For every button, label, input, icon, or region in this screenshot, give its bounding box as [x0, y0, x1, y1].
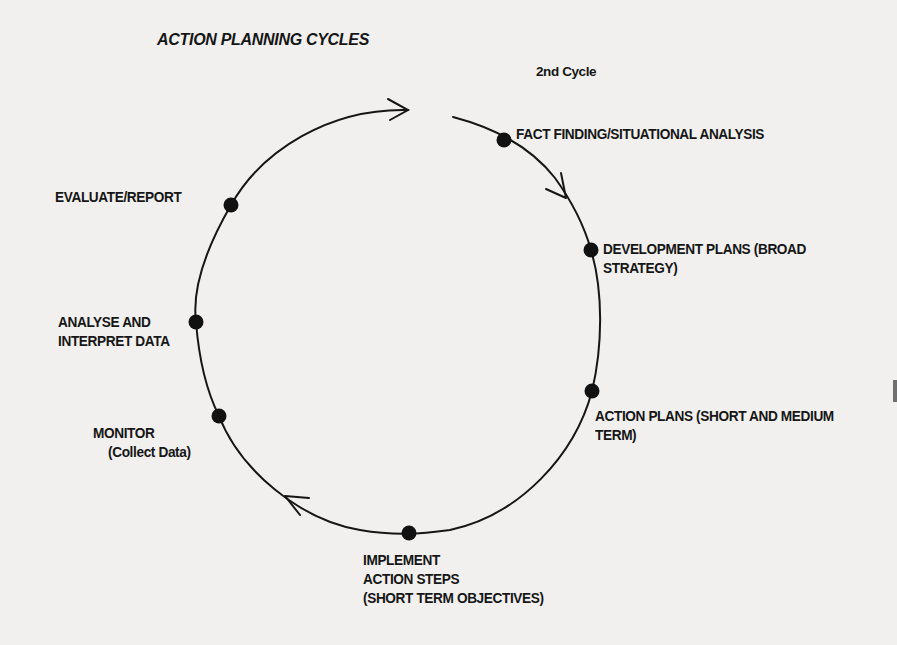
node-fact-finding — [497, 133, 512, 148]
stage-monitor: MONITOR (Collect Data) — [93, 424, 191, 462]
stage-action-plans: ACTION PLANS (SHORT AND MEDIUM TERM) — [595, 407, 834, 445]
node-action-plans — [585, 384, 600, 399]
stage-implement: IMPLEMENT ACTION STEPS (SHORT TERM OBJEC… — [363, 551, 544, 608]
stage-development-plans: DEVELOPMENT PLANS (BROAD STRATEGY) — [603, 240, 806, 278]
stage-fact-finding: FACT FINDING/SITUATIONAL ANALYSIS — [516, 125, 764, 144]
node-implement — [402, 526, 417, 541]
node-analyse — [189, 315, 204, 330]
node-monitor — [212, 409, 227, 424]
arrow-right-icon — [546, 173, 566, 198]
stage-analyse: ANALYSE AND INTERPRET DATA — [58, 313, 170, 351]
diagram-page: ACTION PLANNING CYCLES 2nd Cycle FACT FI… — [0, 0, 897, 645]
node-development-plans — [584, 243, 599, 258]
node-evaluate — [224, 198, 239, 213]
stage-evaluate: EVALUATE/REPORT — [55, 188, 181, 207]
cycle-gap — [410, 100, 452, 126]
page-edge-mark — [893, 380, 897, 402]
cycle-arc-left — [195, 110, 600, 534]
